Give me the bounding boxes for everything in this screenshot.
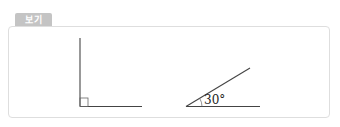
angle-arc-icon <box>200 98 202 106</box>
right-angle-marker-icon <box>80 98 88 107</box>
thirty-degree-angle-figure: 30° <box>186 68 260 107</box>
angle-label: 30° <box>204 93 225 107</box>
angle-diagrams: 30° <box>0 0 340 127</box>
right-angle-figure <box>80 38 142 107</box>
